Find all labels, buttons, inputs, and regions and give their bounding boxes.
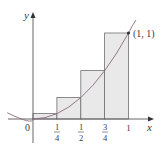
point-label: (1, 1) — [133, 28, 155, 40]
rectangles — [33, 33, 129, 119]
tick-three-quarter-denominator: 4 — [103, 133, 108, 143]
rectangle-4 — [105, 33, 129, 119]
tick-one-label: 1 — [126, 123, 131, 133]
tick-three-quarter-numerator: 3 — [103, 122, 107, 132]
riemann-sum-diagram: y x 0 (1, 1) 1 4 1 2 3 4 1 — [0, 0, 163, 150]
y-axis-arrow-icon — [31, 12, 36, 18]
tick-quarter-denominator: 4 — [55, 133, 60, 143]
tick-quarter-numerator: 1 — [55, 122, 59, 132]
origin-label: 0 — [25, 122, 30, 133]
rectangle-1 — [33, 114, 57, 119]
tick-half-denominator: 2 — [79, 133, 83, 143]
x-axis-label: x — [146, 121, 152, 133]
y-axis-label: y — [23, 9, 29, 21]
tick-half-numerator: 1 — [79, 122, 83, 132]
point-1-1 — [127, 31, 130, 34]
